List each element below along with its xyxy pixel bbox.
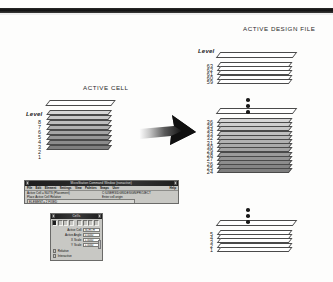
command-input-field[interactable]: ELEMENT= 2 FIXED [27, 199, 135, 203]
window-close-icon[interactable] [98, 214, 101, 217]
vertical-scrollbar[interactable] [98, 240, 101, 249]
cells-dialog[interactable]: Cells Active CellNORTHActive Angle0.0000… [50, 213, 103, 261]
figure-page: ACTIVE CELL Level 87654321 ACTIVE DESIGN… [0, 0, 333, 282]
cells-dialog-title-bar: Cells [51, 214, 102, 219]
field-row: Active CellNORTH [53, 228, 100, 232]
tool-button-7[interactable] [88, 220, 93, 225]
menu-item-view[interactable]: View [75, 186, 82, 190]
checkbox-row[interactable]: Relative [53, 249, 100, 253]
field-input[interactable]: 0.0000 [83, 233, 100, 237]
design-file-level-number: 24 [199, 169, 213, 175]
menu-item-settings[interactable]: Settings [60, 186, 72, 190]
cells-toolbar[interactable] [51, 219, 102, 227]
status-prompt: Enter cell origin [102, 195, 123, 199]
tool-button-6[interactable] [83, 220, 88, 225]
status-area: Active Cell = NUTS (Placement) Place Act… [25, 191, 178, 204]
tool-button-8[interactable] [94, 220, 99, 225]
menu-item-palettes[interactable]: Palettes [85, 186, 97, 190]
design-file-level-sheet [217, 247, 293, 252]
field-label: Y Scale [71, 243, 81, 247]
cells-checkbox-list: RelativeInteractive [51, 248, 102, 260]
tool-button-3[interactable] [63, 220, 68, 225]
design-file-cover [216, 52, 297, 58]
menu-item-help[interactable]: Help [169, 186, 176, 190]
status-place-active-cell: Place Active Cell Relative [27, 195, 61, 199]
menu-item-edit[interactable]: Edit [36, 186, 42, 190]
tool-button-4[interactable] [69, 220, 74, 225]
design-file-cover [216, 220, 297, 226]
design-file-level-number: 59 [199, 79, 213, 85]
checkbox-label: Relative [58, 249, 69, 253]
design-file-level-sheet [217, 79, 293, 84]
field-input[interactable]: NORTH [83, 228, 100, 232]
menu-item-element[interactable]: Element [45, 186, 57, 190]
checkbox-label: Interactive [58, 254, 72, 258]
field-label: Active Cell [67, 228, 81, 232]
field-row: X Scale1.0000 [53, 238, 100, 242]
menu-item-snaps[interactable]: Snaps [100, 186, 109, 190]
window-close-icon[interactable] [174, 181, 177, 184]
ellipsis-bottom [246, 208, 250, 227]
field-row: Y Scale1.0000 [53, 243, 100, 247]
window-menu-icon[interactable] [26, 181, 29, 184]
design-file-level-number: 1 [199, 247, 213, 253]
tool-button-5[interactable] [77, 220, 82, 225]
field-label: X Scale [71, 238, 81, 242]
tool-button-2[interactable] [58, 220, 63, 225]
design-file-cover [216, 108, 297, 114]
menu-item-user[interactable]: User [112, 186, 119, 190]
cells-dialog-title-text: Cells [72, 214, 80, 218]
window-menu-icon[interactable] [52, 214, 55, 217]
ellipsis-top [246, 98, 250, 117]
checkbox-icon[interactable] [53, 254, 56, 257]
checkbox-icon[interactable] [53, 249, 56, 252]
menu-item-file[interactable]: File [27, 186, 32, 190]
checkbox-row[interactable]: Interactive [53, 254, 100, 258]
design-file-level-sheet [217, 168, 293, 173]
tool-button-1[interactable] [52, 220, 57, 225]
cells-field-list: Active CellNORTHActive Angle0.0000X Scal… [51, 227, 102, 247]
field-label: Active Angle [65, 233, 82, 237]
field-row: Active Angle0.0000 [53, 233, 100, 237]
microstation-command-window[interactable]: MicroStation Command Window (nonactive) … [24, 180, 179, 204]
